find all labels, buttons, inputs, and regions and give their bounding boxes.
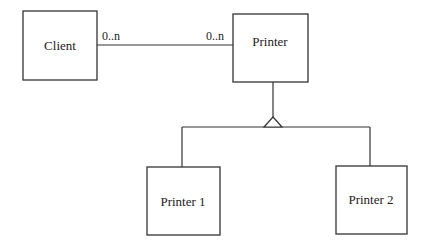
class-printer2[interactable]: Printer 2 [336,166,407,234]
class-client-name: Client [44,38,76,53]
class-printer-name: Printer [252,34,288,49]
generalization [182,82,370,167]
class-printer1[interactable]: Printer 1 [147,167,220,235]
inheritance-triangle-icon [264,117,282,127]
class-printer1-name: Printer 1 [160,194,205,209]
class-printer2-name: Printer 2 [348,192,393,207]
printer-multiplicity: 0..n [206,29,224,43]
class-printer[interactable]: Printer [233,14,308,82]
uml-class-diagram: 0..n 0..n Client Printer Printer 1 Print… [0,0,428,247]
client-multiplicity: 0..n [102,29,120,43]
class-client[interactable]: Client [23,11,97,80]
